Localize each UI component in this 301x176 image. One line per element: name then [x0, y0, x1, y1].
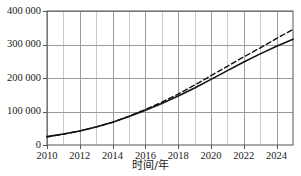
y-tick-label: 200 000: [7, 73, 41, 84]
x-axis-title: 时间/年: [0, 160, 301, 171]
y-tick-label: 0: [36, 140, 41, 151]
y-tick-label: 300 000: [7, 39, 41, 50]
y-tick-label: 100 000: [7, 106, 41, 117]
x-axis-ticks: [48, 145, 278, 149]
line-chart: 0100 000200 000300 000400 000 2010201220…: [0, 0, 301, 176]
y-axis-ticks: [43, 12, 47, 146]
y-tick-label: 400 000: [7, 6, 41, 17]
